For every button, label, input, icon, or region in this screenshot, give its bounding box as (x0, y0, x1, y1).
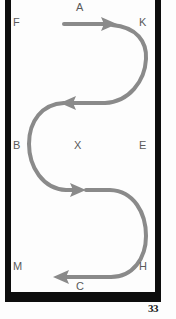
diagram-label-h: H (139, 261, 147, 272)
frame-bottom-edge (5, 292, 161, 302)
frame-right-edge (155, 0, 161, 302)
frame-left-edge (5, 0, 11, 302)
paper-background (0, 0, 176, 319)
diagram-label-e: E (139, 140, 146, 151)
diagram-label-b: B (13, 140, 20, 151)
page-number: 33 (148, 303, 158, 314)
diagram-label-a: A (76, 2, 83, 13)
diagram-label-m: M (13, 261, 22, 272)
diagram-canvas (0, 0, 176, 319)
diagram-label-f: F (13, 17, 20, 28)
diagram-label-x: X (74, 140, 81, 151)
diagram-label-k: K (139, 17, 146, 28)
diagram-label-c: C (76, 281, 84, 292)
scanned-page: A F K B X E M H C 33 (0, 0, 176, 319)
